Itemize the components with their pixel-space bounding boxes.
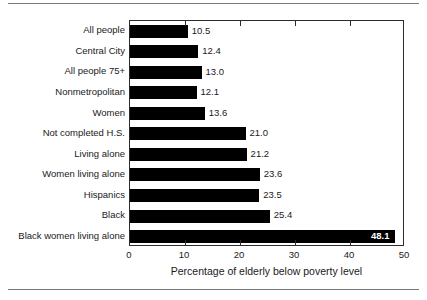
x-axis-tick-label: 0 xyxy=(126,249,131,261)
bar-value-label: 12.1 xyxy=(201,85,220,98)
bar-value-label: 13.0 xyxy=(206,65,225,78)
x-axis-tick xyxy=(295,21,296,26)
bar xyxy=(130,189,259,202)
bar-row: 21.0 xyxy=(130,124,403,145)
category-label: Women xyxy=(0,106,125,119)
x-axis-tick xyxy=(295,240,296,245)
category-label: Women living alone xyxy=(0,167,125,180)
bar xyxy=(130,230,395,243)
bar-value-label: 21.2 xyxy=(251,147,270,160)
bar-value-label: 48.1 xyxy=(371,229,390,242)
bar-chart: All peopleCentral CityAll people 75+Nonm… xyxy=(0,0,427,300)
bar-row: 25.4 xyxy=(130,206,403,227)
bar xyxy=(130,127,246,140)
x-axis-tick xyxy=(185,21,186,26)
bar-row: 10.5 xyxy=(130,21,403,42)
x-axis-tick xyxy=(240,240,241,245)
bar xyxy=(130,210,270,223)
bar xyxy=(130,66,202,79)
bar-row: 12.4 xyxy=(130,42,403,63)
bar-row: 23.5 xyxy=(130,185,403,206)
bar-row: 48.1 xyxy=(130,226,403,247)
x-axis-tick-label: 50 xyxy=(399,249,410,261)
x-axis-tick-labels: 01020304050 xyxy=(129,249,404,263)
category-label: Black xyxy=(0,208,125,221)
x-axis-tick-label: 40 xyxy=(344,249,355,261)
bar-value-label: 12.4 xyxy=(202,44,221,57)
x-axis-tick xyxy=(350,240,351,245)
x-axis-tick xyxy=(350,21,351,26)
bar xyxy=(130,107,205,120)
x-axis-title: Percentage of elderly below poverty leve… xyxy=(129,264,404,278)
category-label: Black women living alone xyxy=(0,229,125,242)
bar-value-label: 23.5 xyxy=(263,188,282,201)
category-label: Central City xyxy=(0,44,125,57)
bar-value-label: 25.4 xyxy=(274,208,293,221)
bar xyxy=(130,86,197,99)
category-label: Nonmetropolitan xyxy=(0,85,125,98)
bar xyxy=(130,45,198,58)
bar-rows: 10.512.413.012.113.621.021.223.623.525.4… xyxy=(130,21,403,245)
bar xyxy=(130,25,188,38)
x-axis-tick-label: 30 xyxy=(289,249,300,261)
category-label: Hispanics xyxy=(0,188,125,201)
bar-value-label: 21.0 xyxy=(250,126,269,139)
plot-area: 10.512.413.012.113.621.021.223.623.525.4… xyxy=(129,20,404,246)
bar-value-label: 13.6 xyxy=(209,106,228,119)
x-axis-tick xyxy=(240,21,241,26)
bar-row: 13.6 xyxy=(130,103,403,124)
category-axis-labels: All peopleCentral CityAll people 75+Nonm… xyxy=(0,20,125,246)
category-label: Living alone xyxy=(0,147,125,160)
x-axis-tick-label: 10 xyxy=(179,249,190,261)
bar-value-label: 23.6 xyxy=(264,167,283,180)
bar-row: 21.2 xyxy=(130,144,403,165)
category-label: Not completed H.S. xyxy=(0,126,125,139)
bar-row: 12.1 xyxy=(130,83,403,104)
category-label: All people 75+ xyxy=(0,64,125,77)
x-axis-tick xyxy=(185,240,186,245)
category-label: All people xyxy=(0,23,125,36)
x-axis-tick-label: 20 xyxy=(234,249,245,261)
bar xyxy=(130,148,247,161)
bar-row: 23.6 xyxy=(130,165,403,186)
bar-value-label: 10.5 xyxy=(192,24,211,37)
bar-row: 13.0 xyxy=(130,62,403,83)
bar xyxy=(130,168,260,181)
